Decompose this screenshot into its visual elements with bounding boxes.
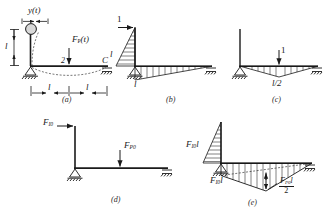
span-moment-leader-e	[268, 184, 277, 190]
caption-a: (a)	[62, 96, 71, 104]
beam-moment-label-e: FI0l	[210, 176, 223, 186]
deformed-column-shape	[32, 31, 39, 66]
span-label-right-a: l	[86, 83, 89, 92]
caption-c: (c)	[272, 96, 281, 104]
midspan-ordinate-label-c: l/2	[272, 79, 282, 88]
pin-support-c	[232, 67, 248, 79]
roller-support-c	[311, 68, 322, 74]
panel-d	[57, 126, 172, 181]
panel-c	[232, 29, 322, 79]
caption-e: (e)	[248, 199, 257, 207]
caption-b: (b)	[166, 96, 175, 104]
span-moment-label-e: FP0l 2	[279, 177, 294, 195]
panel-b	[116, 28, 216, 81]
column-height-dimension	[10, 29, 19, 66]
node-label-c-a: C	[102, 56, 108, 65]
pin-support-d	[67, 169, 83, 181]
column-moment-label-e: FI0l	[186, 140, 199, 150]
caption-d: (d)	[111, 196, 120, 204]
deflected-beam-shape	[32, 68, 106, 76]
column-moment-diagram-e	[203, 122, 221, 163]
span-label-left-a: l	[48, 83, 51, 92]
beam-moment-diagram-b	[135, 66, 212, 80]
beam-moment-diagram-c	[240, 66, 318, 77]
inertia-force-label-d: FI0	[43, 118, 53, 128]
beam-ordinate-label-b: l	[134, 80, 137, 89]
beam-moment-hatching-c	[246, 66, 314, 76]
dynamic-load-label-a: FP(t)	[72, 35, 89, 45]
lumped-mass	[26, 24, 37, 35]
roller-support-e	[304, 165, 315, 171]
applied-load-label-d: FP0	[124, 141, 136, 151]
roller-support-b	[205, 68, 216, 74]
displacement-dimension	[22, 19, 48, 25]
unit-load-label-b: 1	[117, 15, 122, 24]
node-label-2-a: 2	[61, 57, 65, 65]
displacement-label-a: y(t)	[28, 6, 41, 15]
roller-support-d	[161, 170, 172, 176]
column-ordinate-label-b: l	[110, 50, 113, 59]
column-height-label-a: l	[5, 42, 8, 51]
unit-load-label-c: 1	[281, 46, 286, 55]
